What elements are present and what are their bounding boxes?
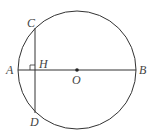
center-point (75, 68, 79, 72)
label-h: H (38, 57, 49, 71)
label-d: D (29, 115, 39, 129)
geometry-diagram: A B C D H O (0, 0, 153, 138)
label-c: C (27, 16, 36, 30)
label-a: A (5, 63, 14, 77)
label-o: O (72, 73, 81, 87)
label-b: B (139, 63, 147, 77)
right-angle-marker (30, 65, 35, 70)
